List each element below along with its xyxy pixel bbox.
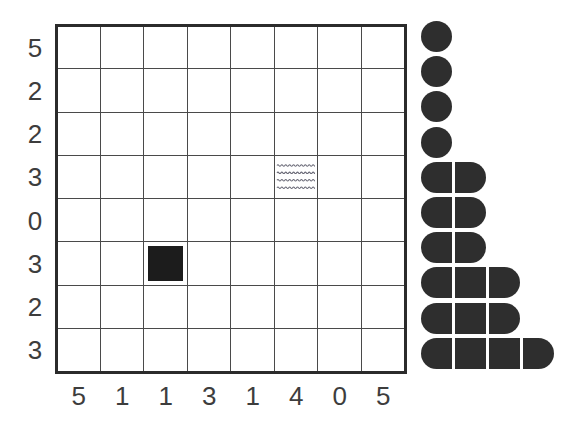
grid-cell-r4-c6[interactable]	[318, 199, 362, 242]
grid-cell-r7-c1[interactable]	[101, 329, 145, 372]
grid-cell-r4-c7[interactable]	[362, 199, 406, 242]
grid-cell-r1-c1[interactable]	[101, 69, 145, 112]
blob-segment	[455, 162, 486, 193]
grid-cell-r3-c1[interactable]	[101, 156, 145, 199]
x-axis-labels: 51131405	[57, 379, 405, 413]
grid-cell-r0-c3[interactable]	[188, 26, 232, 69]
grid-cell-r3-c2[interactable]	[144, 156, 188, 199]
grid-cell-r7-c6[interactable]	[318, 329, 362, 372]
blob-segment	[489, 267, 520, 298]
grid-cell-r2-c7[interactable]	[362, 113, 406, 156]
grid-cell-r6-c4[interactable]	[231, 286, 275, 329]
blob-segment	[489, 338, 520, 369]
grid-cell-r5-c7[interactable]	[362, 242, 406, 285]
grid-cell-r5-c3[interactable]	[188, 242, 232, 285]
grid-cell-r7-c5[interactable]	[275, 329, 319, 372]
blob-segment	[421, 21, 452, 52]
grid-cell-r1-c4[interactable]	[231, 69, 275, 112]
grid-cell-r2-c3[interactable]	[188, 113, 232, 156]
grid-cell-r6-c5[interactable]	[275, 286, 319, 329]
grid-cell-r4-c5[interactable]	[275, 199, 319, 242]
grid-cell-r2-c1[interactable]	[101, 113, 145, 156]
grid-cell-r4-c4[interactable]	[231, 199, 275, 242]
grid-cell-r7-c7[interactable]	[362, 329, 406, 372]
grid-cell-r1-c0[interactable]	[57, 69, 101, 112]
blob-segment	[421, 197, 452, 228]
grid-cell-r1-c2[interactable]	[144, 69, 188, 112]
grid-cell-r2-c4[interactable]	[231, 113, 275, 156]
grid-cell-r3-c4[interactable]	[231, 156, 275, 199]
grid-cell-r7-c0[interactable]	[57, 329, 101, 372]
grid-figure	[57, 26, 405, 372]
grid-cell-r6-c0[interactable]	[57, 286, 101, 329]
solid-square-marker	[148, 246, 183, 281]
y-axis-tick-1: 2	[19, 69, 51, 112]
grid-cell-r5-c2[interactable]	[144, 242, 188, 285]
grid-cell-r5-c0[interactable]	[57, 242, 101, 285]
grid-cell-r0-c0[interactable]	[57, 26, 101, 69]
grid-cell-r3-c0[interactable]	[57, 156, 101, 199]
grid-cell-r5-c4[interactable]	[231, 242, 275, 285]
grid-cell-r0-c2[interactable]	[144, 26, 188, 69]
wavy-water-marker	[276, 158, 315, 195]
grid-cell-r2-c0[interactable]	[57, 113, 101, 156]
grid-cells	[57, 26, 405, 372]
grid-cell-r4-c2[interactable]	[144, 199, 188, 242]
grid-cell-r5-c1[interactable]	[101, 242, 145, 285]
grid-cell-r2-c2[interactable]	[144, 113, 188, 156]
grid-cell-r0-c7[interactable]	[362, 26, 406, 69]
grid-cell-r6-c7[interactable]	[362, 286, 406, 329]
grid-cell-r4-c1[interactable]	[101, 199, 145, 242]
blob-segment	[421, 267, 452, 298]
y-axis-tick-5: 3	[19, 242, 51, 285]
grid-cell-r7-c3[interactable]	[188, 329, 232, 372]
x-axis-tick-5: 4	[275, 379, 319, 413]
grid-cell-r5-c5[interactable]	[275, 242, 319, 285]
blob-segment	[421, 91, 452, 122]
blob-segment	[421, 232, 452, 263]
blob-segment	[455, 303, 486, 334]
grid-cell-r7-c2[interactable]	[144, 329, 188, 372]
grid-cell-r3-c3[interactable]	[188, 156, 232, 199]
grid-cell-r6-c1[interactable]	[101, 286, 145, 329]
y-axis-labels: 52230323	[19, 26, 51, 372]
blob-row-2	[421, 91, 452, 122]
grid-cell-r3-c6[interactable]	[318, 156, 362, 199]
grid-cell-r0-c6[interactable]	[318, 26, 362, 69]
grid-cell-r6-c6[interactable]	[318, 286, 362, 329]
blob-row-7	[421, 267, 520, 298]
x-axis-tick-4: 1	[231, 379, 275, 413]
blob-segment	[421, 162, 452, 193]
grid-cell-r6-c3[interactable]	[188, 286, 232, 329]
x-axis-tick-1: 1	[101, 379, 145, 413]
blob-segment	[523, 338, 554, 369]
blob-segment	[421, 56, 452, 87]
grid-cell-r5-c6[interactable]	[318, 242, 362, 285]
blob-segment	[421, 303, 452, 334]
grid-cell-r6-c2[interactable]	[144, 286, 188, 329]
grid-cell-r7-c4[interactable]	[231, 329, 275, 372]
blob-row-1	[421, 56, 452, 87]
x-axis-tick-3: 3	[188, 379, 232, 413]
grid-cell-r3-c7[interactable]	[362, 156, 406, 199]
grid-cell-r2-c6[interactable]	[318, 113, 362, 156]
grid-cell-r0-c4[interactable]	[231, 26, 275, 69]
grid-cell-r0-c5[interactable]	[275, 26, 319, 69]
blob-segment	[455, 338, 486, 369]
blob-segment	[455, 232, 486, 263]
grid-cell-r0-c1[interactable]	[101, 26, 145, 69]
grid-cell-r1-c3[interactable]	[188, 69, 232, 112]
blob-segment	[421, 338, 452, 369]
y-axis-tick-7: 3	[19, 329, 51, 372]
grid-cell-r1-c5[interactable]	[275, 69, 319, 112]
grid-cell-r1-c6[interactable]	[318, 69, 362, 112]
blob-row-5	[421, 197, 486, 228]
grid-cell-r4-c3[interactable]	[188, 199, 232, 242]
grid-cell-r4-c0[interactable]	[57, 199, 101, 242]
grid-cell-r3-c5[interactable]	[275, 156, 319, 199]
grid-cell-r2-c5[interactable]	[275, 113, 319, 156]
y-axis-tick-0: 5	[19, 26, 51, 69]
grid-cell-r1-c7[interactable]	[362, 69, 406, 112]
x-axis-tick-6: 0	[318, 379, 362, 413]
blob-segment	[455, 267, 486, 298]
